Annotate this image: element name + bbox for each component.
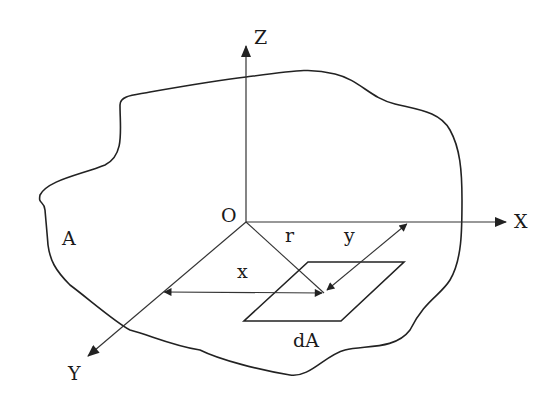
- y-axis: [88, 222, 246, 356]
- y-axis-label: Y: [67, 362, 81, 384]
- region-label: A: [61, 227, 76, 249]
- y-distance-label: y: [343, 224, 355, 246]
- element-label: dA: [293, 329, 319, 351]
- x-distance-label: x: [237, 260, 248, 282]
- origin-label: O: [221, 204, 237, 226]
- x-distance-arrow: [164, 292, 322, 293]
- radius-label: r: [285, 224, 295, 246]
- y-distance-arrow: [327, 224, 407, 290]
- z-axis-label: Z: [254, 26, 267, 48]
- x-axis-label: X: [514, 210, 528, 232]
- diagram-canvas: Z X Y O A dA r x y: [0, 0, 556, 400]
- area-element-dA: [244, 262, 404, 321]
- region-boundary: [40, 70, 462, 375]
- area-moment-diagram: Z X Y O A dA r x y: [0, 0, 556, 400]
